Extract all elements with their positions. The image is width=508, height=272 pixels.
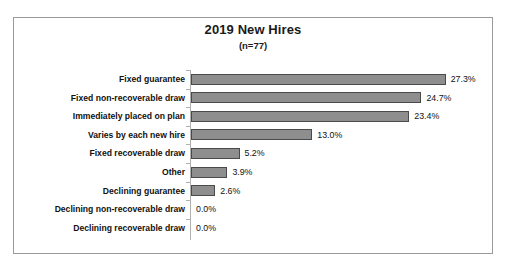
bar-value-label: 2.6% bbox=[220, 182, 240, 201]
axis-tick-mark bbox=[186, 200, 190, 201]
bar-value-label: 0.0% bbox=[196, 219, 216, 238]
category-label: Fixed non-recoverable draw bbox=[15, 89, 185, 108]
bar-row: Fixed recoverable draw5.2% bbox=[14, 144, 492, 163]
axis-tick-mark bbox=[186, 182, 190, 183]
axis-tick-mark bbox=[186, 144, 190, 145]
bar bbox=[191, 74, 446, 85]
category-label: Varies by each new hire bbox=[15, 126, 185, 145]
bar bbox=[191, 129, 312, 140]
bar-row: Declining non-recoverable draw0.0% bbox=[14, 200, 492, 219]
bar-value-label: 23.4% bbox=[414, 107, 439, 126]
bar-row: Fixed non-recoverable draw24.7% bbox=[14, 89, 492, 108]
category-label: Declining guarantee bbox=[15, 182, 185, 201]
category-label: Fixed recoverable draw bbox=[15, 144, 185, 163]
axis-tick-mark bbox=[186, 107, 190, 108]
chart-frame: 2019 New Hires (n=77) Fixed guarantee27.… bbox=[13, 17, 493, 254]
bar-value-label: 27.3% bbox=[451, 70, 476, 89]
bar-value-label: 3.9% bbox=[232, 163, 252, 182]
bar-row: Immediately placed on plan23.4% bbox=[14, 107, 492, 126]
bar bbox=[191, 148, 240, 159]
axis-tick-mark bbox=[186, 163, 190, 164]
bar-row: Declining recoverable draw0.0% bbox=[14, 219, 492, 238]
bar bbox=[191, 92, 421, 103]
category-label: Declining recoverable draw bbox=[15, 219, 185, 238]
bar bbox=[191, 185, 215, 196]
axis-tick-mark bbox=[186, 126, 190, 127]
category-label: Other bbox=[15, 163, 185, 182]
bar-row: Varies by each new hire13.0% bbox=[14, 126, 492, 145]
axis-tick-mark bbox=[186, 89, 190, 90]
axis-tick-mark bbox=[186, 70, 190, 71]
category-label: Immediately placed on plan bbox=[15, 107, 185, 126]
bar-row: Other3.9% bbox=[14, 163, 492, 182]
bar-value-label: 5.2% bbox=[245, 144, 265, 163]
bar-value-label: 13.0% bbox=[317, 126, 342, 145]
bar bbox=[191, 111, 409, 122]
bar bbox=[191, 167, 227, 178]
category-label: Fixed guarantee bbox=[15, 70, 185, 89]
chart-subtitle-sample-size: (n=77) bbox=[14, 39, 492, 52]
axis-tick-mark bbox=[186, 219, 190, 220]
bar-value-label: 24.7% bbox=[426, 89, 451, 108]
bar-value-label: 0.0% bbox=[196, 200, 216, 219]
bar-row: Fixed guarantee27.3% bbox=[14, 70, 492, 89]
plot-area: Fixed guarantee27.3%Fixed non-recoverabl… bbox=[14, 68, 492, 248]
bar-row: Declining guarantee2.6% bbox=[14, 182, 492, 201]
category-label: Declining non-recoverable draw bbox=[15, 200, 185, 219]
chart-title: 2019 New Hires bbox=[14, 22, 492, 38]
chart-title-block: 2019 New Hires (n=77) bbox=[14, 22, 492, 52]
